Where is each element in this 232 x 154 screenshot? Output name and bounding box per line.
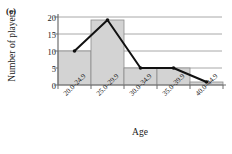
data-point-marker — [106, 18, 110, 22]
x-axis-title: Age — [58, 127, 222, 137]
data-point-marker — [172, 66, 176, 70]
data-point-marker — [139, 66, 143, 70]
figure-panel: (e) Number of players 20 15 10 5 0 — [0, 0, 232, 154]
data-point-marker — [73, 49, 77, 53]
